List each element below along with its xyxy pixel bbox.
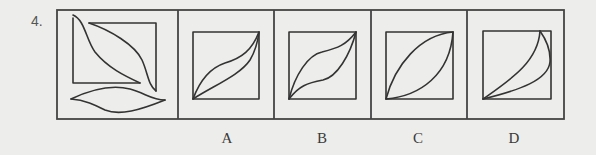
option-c-curve-lower [386,32,453,99]
option-d-curve-lower [483,31,550,99]
option-a-square [193,32,259,99]
option-d-figure[interactable] [483,31,551,99]
option-a-curve-lower [193,32,259,99]
stimulus-leaf-diagonal [73,15,140,83]
option-label-a[interactable]: A [217,130,237,147]
stimulus-cell [71,15,165,112]
option-a-figure[interactable] [193,32,259,99]
option-label-b[interactable]: B [312,130,332,147]
option-d-curve-upper [483,31,540,99]
option-a-curve-upper [193,32,259,99]
option-b-figure[interactable] [289,32,356,99]
option-label-c[interactable]: C [408,130,428,147]
stimulus-leaf-horizontal [71,87,165,100]
option-c-figure[interactable] [386,32,453,99]
option-label-d[interactable]: D [504,130,524,147]
outer-frame [57,10,564,119]
stimulus-leaf-horizontal [71,99,165,112]
